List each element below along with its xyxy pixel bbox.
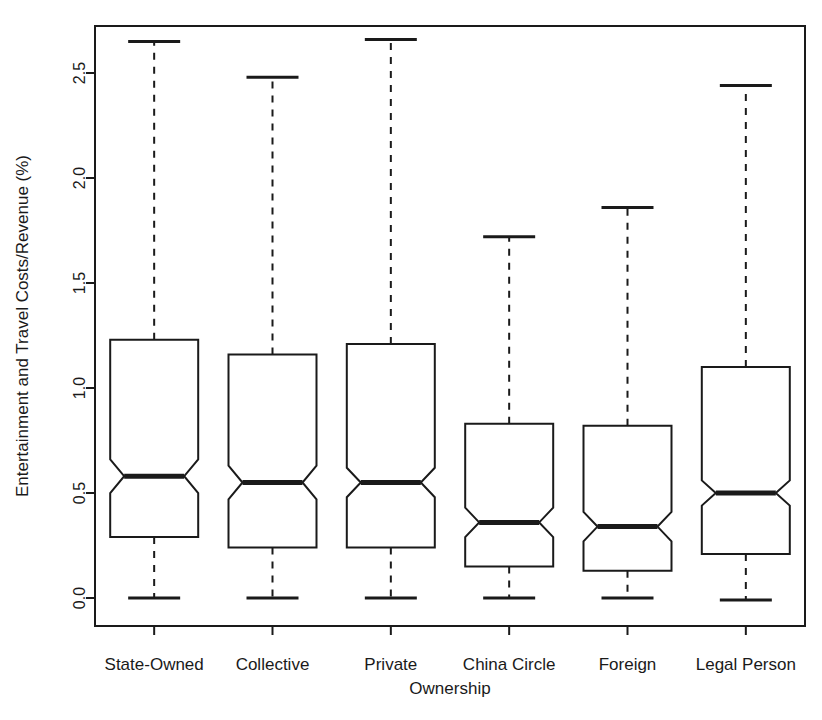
box-iqr [229, 354, 317, 547]
box-iqr [584, 426, 672, 571]
y-tick-label: 2.0 [71, 167, 88, 189]
box-group [229, 77, 317, 598]
y-tick-label: 0.5 [71, 482, 88, 504]
x-category-label: State-Owned [105, 655, 204, 674]
y-axis: 0.00.51.01.52.02.5 [71, 62, 96, 609]
box-iqr [465, 424, 553, 567]
x-category-label: Legal Person [696, 655, 796, 674]
box-iqr [347, 344, 435, 548]
plot-frame [95, 26, 805, 626]
box-iqr [702, 367, 790, 554]
box-group [465, 237, 553, 598]
box-group [110, 42, 198, 599]
x-category-label: Private [364, 655, 417, 674]
box-group [347, 39, 435, 598]
box-group [702, 86, 790, 601]
box-iqr [110, 340, 198, 537]
category-labels: State-OwnedCollectivePrivateChina Circle… [105, 655, 796, 674]
x-category-label: Collective [236, 655, 310, 674]
x-category-label: China Circle [463, 655, 556, 674]
y-tick-label: 0.0 [71, 587, 88, 609]
y-tick-label: 2.5 [71, 62, 88, 84]
box-group [584, 207, 672, 598]
x-axis-title: Ownership [409, 679, 490, 698]
boxplot-figure: 0.00.51.01.52.02.5 State-OwnedCollective… [0, 0, 822, 720]
x-category-label: Foreign [599, 655, 657, 674]
boxes-layer [110, 39, 790, 600]
y-axis-title: Entertainment and Travel Costs/Revenue (… [13, 155, 32, 497]
y-tick-label: 1.0 [71, 377, 88, 399]
y-tick-label: 1.5 [71, 272, 88, 294]
x-axis [154, 626, 746, 635]
